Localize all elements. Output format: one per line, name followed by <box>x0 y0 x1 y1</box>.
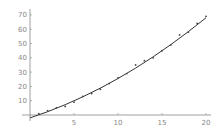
data-point <box>196 23 198 25</box>
data-point <box>38 113 40 115</box>
data-point <box>144 60 146 62</box>
data-point <box>152 57 154 59</box>
data-point <box>161 50 163 52</box>
data-point <box>64 106 66 108</box>
data-points <box>38 15 207 114</box>
data-point <box>205 15 207 17</box>
data-point <box>47 110 49 112</box>
y-tick-label: 50 <box>18 40 27 48</box>
x-tick-label: 15 <box>158 119 167 127</box>
data-point <box>135 64 137 66</box>
data-point <box>126 73 128 75</box>
x-tick-label: 5 <box>72 119 76 127</box>
y-tick-label: 40 <box>18 54 27 62</box>
data-point <box>108 83 110 85</box>
y-tick-label: 10 <box>18 97 27 105</box>
chart-container: 510152010203040506070 <box>0 0 224 135</box>
data-point <box>179 34 181 36</box>
y-tick-label: 70 <box>18 11 27 19</box>
data-point <box>56 107 58 109</box>
data-point <box>117 77 119 79</box>
data-point <box>73 101 75 103</box>
data-point <box>170 44 172 46</box>
x-tick-label: 10 <box>114 119 123 127</box>
y-tick-label: 30 <box>18 69 27 77</box>
data-point <box>188 31 190 33</box>
axes <box>22 9 211 121</box>
y-tick-label: 60 <box>18 26 27 34</box>
scatter-plot: 510152010203040506070 <box>0 0 224 135</box>
data-point <box>82 96 84 98</box>
data-point <box>91 93 93 95</box>
y-tick-label: 20 <box>18 83 27 91</box>
tick-labels: 510152010203040506070 <box>18 11 210 127</box>
fit-curve <box>30 18 206 118</box>
data-point <box>100 88 102 90</box>
x-tick-label: 20 <box>202 119 211 127</box>
